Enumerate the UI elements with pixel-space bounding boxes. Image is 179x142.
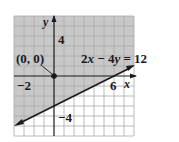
tick-label-x-neg2: −2	[17, 79, 31, 92]
tick-label-y-4: 4	[58, 33, 65, 46]
equation-label: 2x − 4y = 12	[81, 52, 147, 65]
tick-label-x-6: 6	[110, 79, 117, 92]
x-axis-arrow-icon	[130, 74, 137, 79]
coordinate-graph	[0, 0, 179, 142]
eq-coef-y: − 4	[94, 51, 114, 66]
eq-rhs: = 12	[120, 51, 147, 66]
test-point-origin	[51, 73, 57, 79]
y-axis-label: y	[43, 16, 48, 28]
point-label: (0, 0)	[16, 52, 44, 65]
x-axis-label: x	[124, 78, 130, 90]
tick-label-y-neg4: −4	[58, 111, 72, 124]
